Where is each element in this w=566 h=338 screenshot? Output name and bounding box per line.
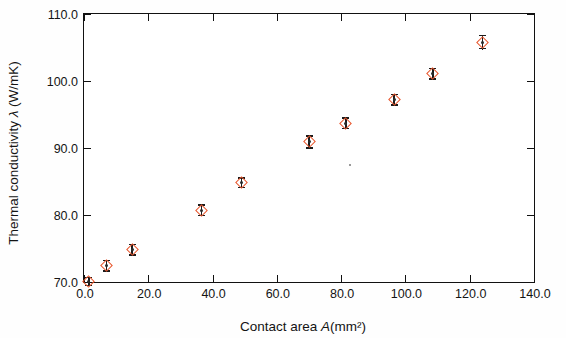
y-axis-tick: 100.0: [84, 81, 91, 82]
y-axis-title-prefix: Thermal conductivity: [6, 117, 21, 245]
x-axis-tick: 80.0: [341, 275, 342, 282]
y-axis-tick-label: 90.0: [54, 142, 78, 156]
x-axis-tick-label: 0.0: [76, 287, 93, 301]
data-point-center: [481, 41, 484, 44]
x-axis-tick: 100.0: [405, 275, 406, 282]
x-axis-tick-label: 80.0: [330, 287, 354, 301]
y-axis-title-suffix: (W/mK): [6, 61, 21, 111]
y-axis-title-symbol: λ: [6, 110, 21, 117]
chart-container: Thermal conductivity λ (W/mK) 70.080.090…: [0, 0, 566, 338]
data-point-center: [393, 98, 396, 101]
x-axis-tick-label: 40.0: [201, 287, 225, 301]
y-axis-tick-label: 80.0: [54, 209, 78, 223]
x-axis-tick-top: [277, 14, 278, 21]
x-axis-tick-label: 60.0: [266, 287, 290, 301]
speckle-artifact: [349, 164, 351, 166]
y-axis-tick: 80.0: [84, 215, 91, 216]
y-axis-tick: 110.0: [84, 14, 91, 15]
y-axis-tick-label: 110.0: [48, 8, 78, 22]
y-axis-title: Thermal conductivity λ (W/mK): [0, 10, 26, 295]
y-axis-tick-right: [527, 282, 534, 283]
x-axis-title-symbol: A: [321, 319, 330, 334]
x-axis-tick: 120.0: [470, 275, 471, 282]
x-axis-tick: 40.0: [213, 275, 214, 282]
x-axis-tick: 20.0: [148, 275, 149, 282]
x-axis-tick-label: 20.0: [137, 287, 161, 301]
x-axis-tick: 140.0: [534, 275, 535, 282]
x-axis-title: Contact area A(mm²): [0, 319, 566, 334]
x-axis-tick-top: [405, 14, 406, 21]
x-axis-tick-top: [84, 14, 85, 21]
y-axis-tick-right: [527, 81, 534, 82]
x-axis-tick-top: [534, 14, 535, 21]
y-axis-tick-label: 100.0: [47, 75, 78, 89]
x-axis-tick: 60.0: [277, 275, 278, 282]
y-axis-tick-label: 70.0: [54, 276, 78, 290]
x-axis-tick-top: [213, 14, 214, 21]
x-axis-tick-label: 140.0: [519, 287, 550, 301]
data-point-center: [200, 209, 203, 212]
x-axis-tick-label: 120.0: [455, 287, 486, 301]
y-axis-tick: 90.0: [84, 148, 91, 149]
x-axis-title-prefix: Contact area: [240, 319, 321, 334]
plot-area: 70.080.090.0100.0110.00.020.040.060.080.…: [83, 13, 535, 283]
x-axis-title-suffix: (mm²): [330, 319, 366, 334]
x-axis-tick-top: [341, 14, 342, 21]
y-axis-tick-right: [527, 14, 534, 15]
x-axis-tick-top: [470, 14, 471, 21]
x-axis-tick-label: 100.0: [391, 287, 422, 301]
y-axis-tick-right: [527, 215, 534, 216]
x-axis-tick-top: [148, 14, 149, 21]
y-axis-tick-right: [527, 148, 534, 149]
